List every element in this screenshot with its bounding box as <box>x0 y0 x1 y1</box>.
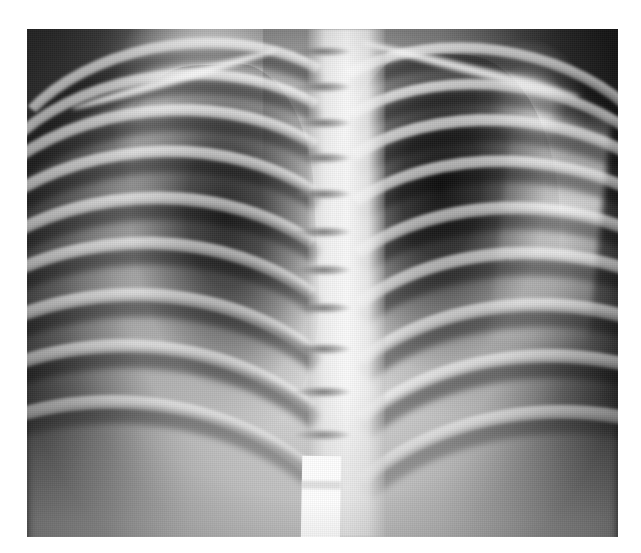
radiopaque-marker-notch <box>300 481 340 490</box>
page-canvas <box>0 0 641 553</box>
radiograph-plate <box>27 29 618 537</box>
clavicle-left <box>71 46 278 113</box>
radiopaque-marker <box>300 455 340 537</box>
bottom-white-margin <box>0 539 641 553</box>
clavicle-right <box>360 38 580 101</box>
